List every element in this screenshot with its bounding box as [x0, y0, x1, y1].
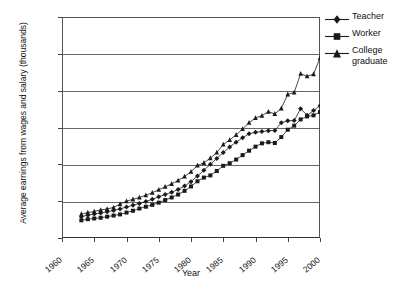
x-tick-mark	[94, 238, 95, 242]
legend-item-teacher[interactable]: Teacher	[325, 12, 402, 29]
x-tick-mark	[320, 238, 321, 242]
x-tick-mark	[127, 238, 128, 242]
legend-label-worker: Worker	[352, 28, 381, 39]
x-tick-mark	[159, 238, 160, 242]
legend-item-college-graduate[interactable]: Collegegraduate	[325, 46, 402, 67]
triangle-marker-icon	[325, 48, 349, 59]
x-tick-mark	[223, 238, 224, 242]
square-marker-icon	[325, 31, 349, 42]
series-worker	[79, 110, 320, 222]
x-tick-mark	[191, 238, 192, 242]
series-college-graduate	[79, 55, 320, 216]
series-teacher	[79, 103, 320, 219]
series-layer	[62, 17, 320, 238]
legend-item-worker[interactable]: Worker	[325, 29, 402, 46]
y-axis-title: Average earnings from wages and salary (…	[18, 8, 28, 238]
chart-figure: Average earnings from wages and salary (…	[0, 0, 402, 288]
x-tick-mark	[288, 238, 289, 242]
x-tick-mark	[62, 238, 63, 242]
legend-label-college-graduate: Collegegraduate	[352, 45, 388, 66]
x-tick-mark	[256, 238, 257, 242]
legend-label-teacher: Teacher	[352, 11, 384, 22]
chart-legend: Teacher Worker Collegegraduate	[325, 12, 402, 67]
legend-label-college-line2: graduate	[352, 56, 388, 66]
diamond-marker-icon	[325, 14, 349, 25]
x-tick-label: 1960	[43, 255, 64, 275]
legend-label-college-line1: College	[352, 45, 383, 55]
